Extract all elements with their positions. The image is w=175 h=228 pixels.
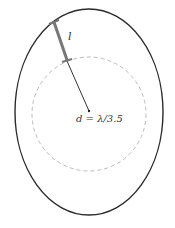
segment-label: l: [68, 30, 72, 43]
center-point: [88, 110, 90, 112]
radius-line: [67, 61, 89, 111]
thick-segment: [54, 22, 67, 60]
distance-label: d = λ/3.5: [76, 113, 123, 124]
